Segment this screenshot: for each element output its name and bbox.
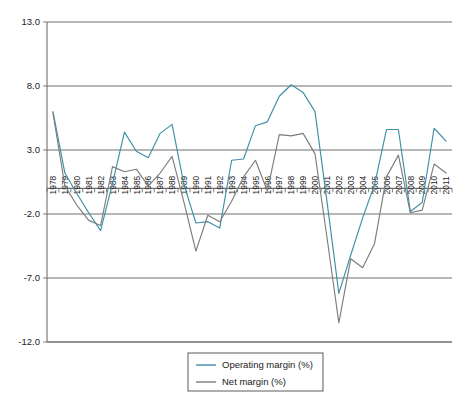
x-axis-tick-label-1988: 1988 — [167, 175, 177, 194]
x-axis-tick-label-1998: 1998 — [286, 175, 296, 194]
x-axis-tick-label-1982: 1982 — [96, 175, 106, 194]
x-axis-tick-label-1987: 1987 — [155, 175, 165, 194]
y-axis-tick-label: 3.0 — [27, 144, 40, 155]
margin-line-chart: 13.08.03.0-2.0-7.0-12.0 1978197919801981… — [0, 0, 461, 403]
x-axis-tick-label-1984: 1984 — [120, 175, 130, 194]
legend-label-net-margin: Net margin (%) — [222, 376, 286, 387]
x-axis-tick-label-2002: 2002 — [334, 175, 344, 194]
chart-legend: Operating margin (%)Net margin (%) — [188, 353, 323, 391]
x-axis-tick-label-1980: 1980 — [72, 175, 82, 194]
y-axis: 13.08.03.0-2.0-7.0-12.0 — [18, 16, 47, 347]
series-line-net-margin — [53, 113, 446, 323]
x-axis-tick-label-2007: 2007 — [394, 175, 404, 194]
x-axis-tick-label-1978: 1978 — [48, 175, 58, 194]
y-axis-tick-label: 8.0 — [27, 80, 40, 91]
y-axis-tick-label: 13.0 — [22, 16, 41, 27]
legend-label-operating-margin: Operating margin (%) — [222, 359, 313, 370]
y-axis-tick-label: -12.0 — [18, 336, 40, 347]
x-axis-tick-label-1992: 1992 — [215, 175, 225, 194]
chart-container: 13.08.03.0-2.0-7.0-12.0 1978197919801981… — [0, 0, 461, 403]
x-axis-tick-label-1985: 1985 — [132, 175, 142, 194]
x-axis-tick-label-1995: 1995 — [251, 175, 261, 194]
data-series — [53, 85, 446, 323]
x-axis-tick-label-1999: 1999 — [298, 175, 308, 194]
x-axis-tick-label-1997: 1997 — [274, 175, 284, 194]
y-axis-tick-label: -2.0 — [24, 208, 40, 219]
x-axis-tick-label-2004: 2004 — [358, 175, 368, 194]
x-axis-tick-label-1996: 1996 — [263, 175, 273, 194]
y-axis-tick-label: -7.0 — [24, 272, 40, 283]
x-axis-tick-label-1990: 1990 — [191, 175, 201, 194]
x-axis-tick-label-2003: 2003 — [346, 175, 356, 194]
x-axis-tick-label-1981: 1981 — [84, 175, 94, 194]
x-axis-tick-label-1991: 1991 — [203, 175, 213, 194]
x-axis-tick-label-2011: 2011 — [441, 176, 451, 194]
